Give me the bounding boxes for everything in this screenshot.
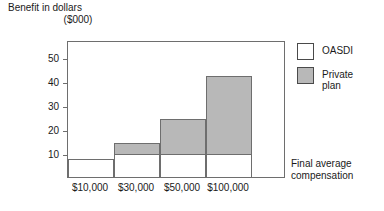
bar-group[interactable]	[160, 119, 206, 177]
y-axis-tick-mark	[63, 155, 68, 156]
y-axis-title-line1: Benefit in dollars	[8, 2, 148, 14]
bar-segment[interactable]	[206, 76, 252, 155]
y-axis-title: Benefit in dollars ($000)	[8, 2, 148, 26]
y-axis-tick-mark	[63, 131, 68, 132]
bar-segment[interactable]	[206, 154, 252, 178]
x-axis-tick-label: $10,000	[67, 182, 113, 194]
x-axis-tick-label: $100,000	[205, 182, 251, 194]
legend-swatch	[297, 67, 314, 84]
bar-group[interactable]	[114, 143, 160, 177]
legend-label: OASDI	[322, 43, 353, 56]
bar-group[interactable]	[68, 159, 114, 177]
bar-group[interactable]	[206, 76, 252, 177]
y-axis-tick-label: 40	[19, 77, 59, 88]
legend-swatch	[297, 43, 314, 60]
bars-layer	[68, 42, 284, 177]
x-axis-tick-label: $50,000	[159, 182, 205, 194]
y-axis-tick-mark	[63, 59, 68, 60]
bar-segment[interactable]	[160, 154, 206, 178]
x-axis-title-line1: Final average	[291, 158, 352, 169]
y-axis-tick-label: 10	[19, 149, 59, 160]
bar-segment[interactable]	[114, 154, 160, 178]
legend-label: Private plan	[322, 67, 353, 91]
y-axis-tick-mark	[63, 83, 68, 84]
x-axis-title: Final average compensation	[291, 158, 383, 182]
bar-segment[interactable]	[160, 119, 206, 155]
chart-legend: OASDIPrivate plan	[297, 43, 383, 98]
y-axis-tick-label: 20	[19, 125, 59, 136]
bar-segment[interactable]	[68, 159, 114, 178]
y-axis-title-line2: ($000)	[8, 14, 148, 26]
x-axis-title-line2: compensation	[291, 170, 353, 181]
x-axis-tick-label: $30,000	[113, 182, 159, 194]
plot-area: 1020304050	[67, 41, 285, 178]
legend-item[interactable]: Private plan	[297, 67, 383, 91]
legend-item[interactable]: OASDI	[297, 43, 383, 60]
y-axis-tick-label: 50	[19, 53, 59, 64]
y-axis-tick-mark	[63, 107, 68, 108]
y-axis-tick-label: 30	[19, 101, 59, 112]
